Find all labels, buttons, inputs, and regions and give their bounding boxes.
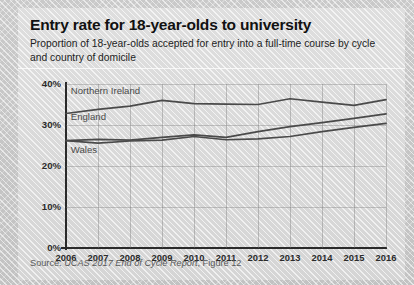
chart-subtitle: Proportion of 18-year-olds accepted for … xyxy=(30,37,382,64)
y-axis-tick-label: 20% xyxy=(17,160,61,171)
y-axis-tick-label: 30% xyxy=(17,119,61,130)
gridline-vertical xyxy=(386,84,387,248)
figure-card: Entry rate for 18-year-olds to universit… xyxy=(18,8,405,280)
page-title: Entry rate for 18-year-olds to universit… xyxy=(30,16,390,34)
series-label-wales: Wales xyxy=(71,144,97,155)
series-label-england: England xyxy=(71,111,106,122)
header-divider xyxy=(18,68,405,69)
chart-series-lines xyxy=(66,84,386,248)
y-axis-tick-label: 10% xyxy=(17,201,61,212)
series-line-northern-ireland xyxy=(66,99,386,114)
page-background: Entry rate for 18-year-olds to universit… xyxy=(0,0,414,285)
source-prefix: Source: xyxy=(30,258,64,268)
series-line-england xyxy=(66,114,386,141)
chart-plot-area: 0%10%20%30%40% 2006200720082009201020112… xyxy=(66,84,386,248)
y-axis-tick-label: 40% xyxy=(17,78,61,89)
series-label-northern-ireland: Northern Ireland xyxy=(71,85,140,96)
source-note: Source: UCAS 2017 End of Cycle Report, F… xyxy=(30,258,241,268)
source-suffix: , Figure 12 xyxy=(198,258,242,268)
source-title: UCAS 2017 End of Cycle Report xyxy=(64,258,197,268)
x-axis-tick-label: 2016 xyxy=(366,252,406,263)
